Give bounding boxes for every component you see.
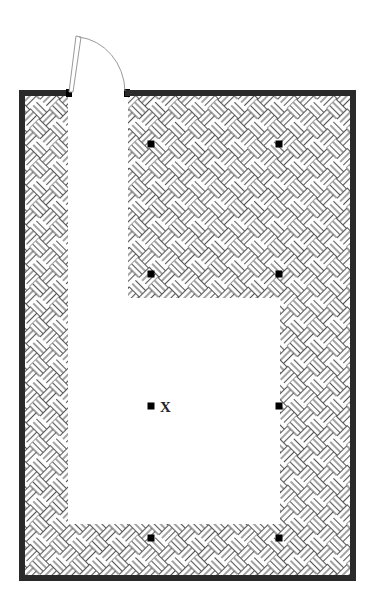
door-swing-arc bbox=[79, 37, 125, 91]
floor-plan-diagram: X bbox=[0, 0, 373, 616]
marker-square bbox=[148, 141, 155, 148]
wall-right bbox=[350, 90, 356, 581]
wall-top-right bbox=[125, 90, 356, 96]
marker-square bbox=[276, 535, 283, 542]
marker-square bbox=[276, 403, 283, 410]
wall-top-left bbox=[19, 90, 71, 96]
marker-square bbox=[276, 271, 283, 278]
marker-square bbox=[148, 403, 155, 410]
marker-label: X bbox=[160, 399, 171, 415]
door-leaf bbox=[69, 36, 81, 92]
marker-square bbox=[148, 271, 155, 278]
door bbox=[69, 36, 125, 92]
marker-square bbox=[148, 535, 155, 542]
wall-left bbox=[19, 90, 25, 581]
marker-square bbox=[276, 141, 283, 148]
wall-bottom bbox=[19, 575, 356, 581]
